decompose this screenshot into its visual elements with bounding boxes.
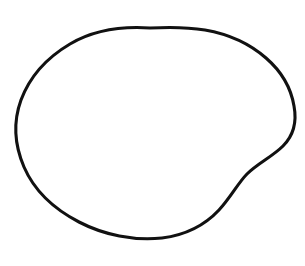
stipple-dot xyxy=(274,56,275,57)
stipple-dot xyxy=(26,223,27,224)
stipple-dot xyxy=(69,237,71,239)
stipple-dot xyxy=(56,48,58,50)
stipple-dot xyxy=(277,210,279,212)
stipple-dot xyxy=(268,25,270,27)
stipple-dot xyxy=(21,23,22,24)
stipple-dot xyxy=(260,25,261,26)
stipple-dot xyxy=(269,22,271,24)
stipple-dot xyxy=(12,114,14,116)
stipple-dot xyxy=(27,47,28,48)
stipple-dot xyxy=(27,34,29,36)
stipple-dot xyxy=(272,157,274,159)
stipple-dot xyxy=(87,238,89,240)
stipple-dot xyxy=(76,241,78,243)
stipple-dot xyxy=(271,202,273,204)
stipple-dot xyxy=(16,44,17,45)
stipple-dot xyxy=(26,46,28,48)
stipple-dot xyxy=(282,172,284,174)
stipple-dot xyxy=(264,190,266,192)
stipple-dot xyxy=(238,27,240,29)
stipple-dot xyxy=(256,43,257,44)
stipple-dot xyxy=(276,154,278,156)
stipple-dot xyxy=(58,37,60,39)
stipple-dot xyxy=(27,198,28,199)
stipple-dot xyxy=(287,60,289,62)
stipple-dot xyxy=(113,244,114,245)
stipple-dot xyxy=(227,203,228,204)
stipple-dot xyxy=(249,223,251,225)
stipple-dot xyxy=(21,173,22,174)
stipple-dot xyxy=(82,227,84,229)
stipple-dot xyxy=(172,239,174,241)
stipple-dot xyxy=(38,31,39,32)
stipple-dot xyxy=(264,27,266,29)
stipple-dot xyxy=(50,48,52,50)
stipple-dot xyxy=(258,214,259,215)
stipple-dot xyxy=(50,20,51,21)
stipple-dot xyxy=(288,196,289,197)
stipple-dot xyxy=(20,203,22,205)
stipple-dot xyxy=(270,34,272,36)
stipple-dot xyxy=(31,39,33,41)
stipple-dot xyxy=(51,241,52,242)
stipple-dot xyxy=(25,208,27,210)
stipple-dot xyxy=(196,244,197,245)
stipple-dot xyxy=(223,24,224,25)
stipple-dot xyxy=(179,22,180,23)
stipple-dot xyxy=(54,232,56,234)
stipple-dot xyxy=(37,50,38,51)
stipple-dot xyxy=(284,218,285,219)
stipple-dot xyxy=(36,47,37,48)
stipple-dot xyxy=(22,222,23,223)
stipple-dot xyxy=(286,30,288,32)
stipple-dot xyxy=(141,22,143,24)
stipple-dot xyxy=(55,45,57,47)
stipple-dot xyxy=(19,168,21,170)
stipple-dot xyxy=(91,230,92,231)
stipple-dot xyxy=(297,81,298,82)
stipple-dot xyxy=(279,153,281,155)
stipple-dot xyxy=(21,59,22,60)
stipple-dot xyxy=(289,202,291,204)
stipple-dot xyxy=(86,234,88,236)
stipple-dot xyxy=(171,24,173,26)
stipple-dot xyxy=(48,216,50,218)
stipple-dot xyxy=(108,238,109,239)
stipple-dot xyxy=(26,181,28,183)
stipple-dot xyxy=(191,243,193,245)
stipple-dot xyxy=(28,40,30,42)
stipple-dot xyxy=(266,199,267,200)
stipple-dot xyxy=(71,36,73,38)
stipple-dot xyxy=(30,225,32,227)
stipple-dot xyxy=(242,186,243,187)
stipple-dot xyxy=(297,25,298,26)
stipple-dot xyxy=(264,229,265,230)
stipple-dot xyxy=(289,50,290,51)
stipple-dot xyxy=(20,86,22,88)
stipple-dot xyxy=(177,238,179,240)
stipple-dot xyxy=(31,238,33,240)
stipple-dot xyxy=(104,237,106,239)
stipple-dot xyxy=(21,193,22,194)
stipple-dot xyxy=(271,218,273,220)
stipple-dot xyxy=(77,235,79,237)
stipple-dot xyxy=(20,66,22,68)
stipple-dot xyxy=(272,225,273,226)
stipple-dot xyxy=(242,210,243,211)
stipple-dot xyxy=(28,242,29,243)
stipple-dot xyxy=(32,19,33,20)
stipple-dot xyxy=(292,200,294,202)
stipple-dot xyxy=(58,224,60,226)
stipple-dot xyxy=(210,243,211,244)
stipple-dot xyxy=(208,244,210,246)
stipple-dot xyxy=(241,223,242,224)
stipple-dot xyxy=(57,48,59,50)
stipple-dot xyxy=(268,219,270,221)
stipple-dot xyxy=(76,29,77,30)
stipple-dot xyxy=(237,240,239,242)
stipple-dot xyxy=(24,19,26,21)
stipple-dot xyxy=(250,30,252,32)
stipple-dot xyxy=(275,199,277,201)
stipple-dot xyxy=(45,239,46,240)
stipple-dot xyxy=(271,191,272,192)
